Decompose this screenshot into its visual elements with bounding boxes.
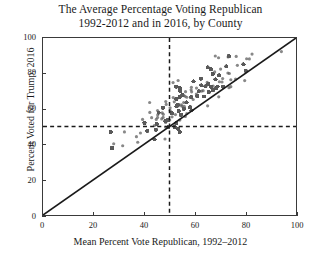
scatter-canvas xyxy=(43,38,296,215)
x-tick-label: 40 xyxy=(127,221,161,230)
y-tick-mark xyxy=(42,73,46,74)
x-tick-mark xyxy=(93,212,94,216)
x-tick-mark xyxy=(246,212,247,216)
x-tick-mark xyxy=(297,212,298,216)
plot-area xyxy=(42,37,297,216)
y-tick-mark xyxy=(42,144,46,145)
y-tick-mark xyxy=(42,216,46,217)
x-tick-label: 20 xyxy=(76,221,110,230)
x-tick-label: 60 xyxy=(178,221,212,230)
x-tick-label: 80 xyxy=(229,221,263,230)
x-tick-mark xyxy=(195,212,196,216)
x-tick-label: 0 xyxy=(25,221,59,230)
chart-title: The Average Percentage Voting Republican… xyxy=(0,2,321,30)
x-tick-label: 100 xyxy=(280,221,314,230)
y-axis-title: Percent Voted for Trump, 2016 xyxy=(25,20,36,200)
y-tick-mark xyxy=(42,180,46,181)
x-axis-title: Mean Percent Vote Republican, 1992–2012 xyxy=(0,236,321,247)
y-tick-mark xyxy=(42,109,46,110)
y-tick-mark xyxy=(42,37,46,38)
x-tick-mark xyxy=(144,212,145,216)
chart-title-line-2: 1992-2012 and in 2016, by County xyxy=(0,16,321,30)
scatter-plot-figure: The Average Percentage Voting Republican… xyxy=(0,0,321,259)
chart-title-line-1: The Average Percentage Voting Republican xyxy=(0,2,321,16)
x-tick-mark xyxy=(42,212,43,216)
y-tick-label: 0 xyxy=(6,212,36,221)
